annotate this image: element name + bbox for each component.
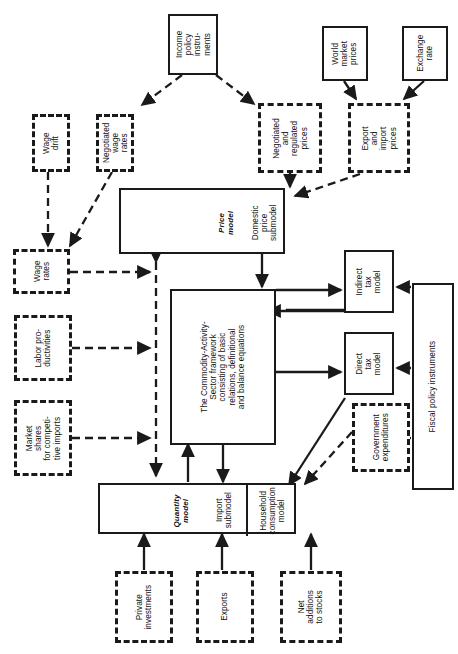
node-label: Government expenditures (372, 412, 390, 464)
node-wage-drift[interactable]: Wage drift (32, 114, 70, 172)
quantity-model-italic-label: Quantity model (162, 485, 202, 536)
node-label: Negotiated wage rates (101, 123, 129, 164)
node-direct-tax-model[interactable]: Direct tax model (344, 332, 394, 395)
node-market-shares-competitive-imports[interactable]: Market shares for competi- tive imports (14, 400, 72, 476)
node-label: The Commodity-Activity- Sector framework… (200, 316, 246, 418)
node-label: Private investments (135, 581, 153, 633)
node-label: Export and import prices (361, 110, 398, 166)
node-label: Market shares for competi- tive imports (25, 412, 62, 464)
node-income-policy-instruments[interactable]: Income policy instru- ments (168, 14, 218, 75)
node-label: Labor pro- ductivities (34, 322, 52, 374)
node-domestic-price-submodel: Domestic price submodel (243, 190, 287, 256)
node-label: Wage drift (42, 127, 60, 159)
node-exports[interactable]: Exports (196, 571, 254, 643)
node-label: Indirect tax model (355, 259, 383, 305)
node-label: Negotiated and regulated prices (272, 109, 309, 167)
node-label: Income policy instru- ments (175, 22, 212, 68)
node-label: Direct tax model (355, 341, 383, 387)
price-model-italic-label: Price model (209, 190, 245, 256)
node-label: Net additions to stocks (297, 579, 325, 635)
node-negotiated-wage-rates[interactable]: Negotiated wage rates (96, 114, 134, 172)
node-household-consumption-model: Household consumption model (248, 485, 298, 536)
node-private-investments[interactable]: Private investments (115, 571, 173, 643)
node-wage-rates[interactable]: Wage rates (13, 249, 70, 294)
node-import-submodel: Import submodel (202, 485, 246, 536)
node-government-expenditures[interactable]: Government expenditures (352, 403, 410, 472)
node-label: Exchange rate (416, 33, 434, 75)
node-world-market-prices[interactable]: World market prices (322, 26, 368, 81)
node-indirect-tax-model[interactable]: Indirect tax model (344, 250, 394, 313)
node-label: Fiscal policy instruments (428, 341, 437, 433)
node-label: Exports (220, 584, 229, 630)
node-label: World market prices (331, 33, 359, 75)
node-labor-productivities[interactable]: Labor pro- ductivities (14, 315, 72, 381)
node-exchange-rate[interactable]: Exchange rate (402, 26, 448, 81)
node-export-import-prices[interactable]: Export and import prices (348, 103, 410, 173)
node-price-model[interactable]: Price model Domestic price submodel (119, 188, 285, 254)
node-commodity-activity-sector-framework[interactable]: The Commodity-Activity- Sector framework… (170, 289, 276, 445)
node-label: Wage rates (32, 250, 50, 294)
node-net-additions-to-stocks[interactable]: Net additions to stocks (280, 571, 342, 643)
node-quantity-model[interactable]: Quantity model Import submodel Household… (98, 483, 296, 534)
node-fiscal-policy-instruments[interactable]: Fiscal policy instruments (412, 283, 454, 490)
diagram-canvas: Income policy instru- ments World market… (0, 0, 458, 654)
node-negotiated-regulated-prices[interactable]: Negotiated and regulated prices (258, 103, 322, 173)
